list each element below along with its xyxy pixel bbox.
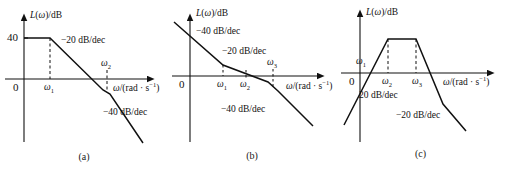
panel-a-x-axis-label: ω/(rad · s−1) (113, 82, 159, 94)
panel-c-origin-label: 0 (349, 76, 355, 87)
panel-c-x-axis-label: ω/(rad · s−1) (443, 76, 489, 88)
panel-b-graph (168, 0, 336, 150)
panel-a-caption: (a) (0, 151, 168, 162)
panel-c-caption: (c) (336, 148, 505, 159)
panel-c-slope-label-neg20: −20 dB/dec (396, 111, 440, 121)
panel-c: L(ω)/dB ω1 0 ω2 ω3 ω/(rad · s−1) 20 dB/d… (336, 0, 505, 173)
panel-a-slope-label-40: −40 dB/dec (103, 108, 147, 118)
panel-a-graph (0, 0, 168, 150)
panel-c-slope-label-pos20: 20 dB/dec (359, 91, 398, 101)
panel-b-slope-label-40-bottom: −40 dB/dec (221, 105, 265, 115)
panel-a-y-axis-label: L(ω)/dB (30, 11, 62, 21)
panel-c-breakpoint-w3-label: ω3 (412, 77, 422, 88)
panel-b-caption: (b) (168, 150, 336, 161)
panel-a-origin-label: 0 (13, 82, 19, 93)
panel-a-breakpoint-w1-label: ω1 (44, 83, 54, 94)
panel-b-breakpoint-w3-label: ω3 (267, 58, 277, 69)
panel-b-origin-label: 0 (179, 79, 185, 90)
panel-b-y-axis-label: L(ω)/dB (196, 9, 228, 19)
panel-b: L(ω)/dB −40 dB/dec −20 dB/dec 0 ω1 ω2 ω3… (168, 0, 336, 173)
panel-c-breakpoint-w1-label: ω1 (356, 57, 366, 68)
bode-plot-figure: L(ω)/dB 40 0 ω1 ω2 ω/(rad · s−1) −20 dB/… (0, 0, 505, 173)
panel-b-breakpoint-w1-label: ω1 (217, 80, 227, 91)
panel-a: L(ω)/dB 40 0 ω1 ω2 ω/(rad · s−1) −20 dB/… (0, 0, 168, 173)
panel-b-slope-label-20: −20 dB/dec (222, 47, 266, 57)
panel-c-breakpoint-w2-label: ω2 (382, 77, 392, 88)
panel-a-breakpoint-w2-label: ω2 (101, 59, 111, 70)
panel-c-y-axis-label: L(ω)/dB (366, 8, 398, 18)
panel-a-ytick-40-label: 40 (7, 32, 18, 43)
panel-b-breakpoint-w2-label: ω2 (240, 80, 250, 91)
panel-a-slope-label-20: −20 dB/dec (61, 36, 105, 46)
panel-b-slope-label-40-top: −40 dB/dec (196, 27, 240, 37)
panel-b-x-axis-label: ω/(rad · s−1) (286, 80, 332, 92)
